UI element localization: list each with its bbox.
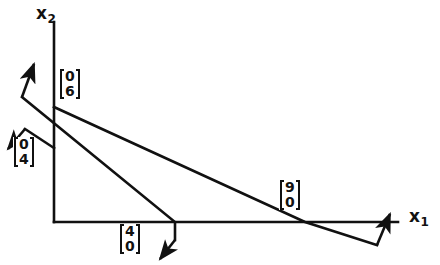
constraint-line-shallow [54,107,377,245]
vector-value-bottom: 4 [19,152,29,167]
x-axis-label-sub: 1 [420,215,428,229]
normal-vector-up-right [22,64,34,97]
y-axis-label-main: x [36,3,47,23]
vector-label-0-4: 0 4 [13,137,35,167]
y-axis-label: x2 [36,3,56,26]
bracket-right-icon [76,69,80,99]
x-axis-label: x1 [409,206,429,229]
vector-value-bottom: 0 [285,195,295,210]
vector-value-top: 4 [125,224,135,239]
vector-values: 0 4 [18,137,30,167]
diagram-canvas [0,0,440,265]
normal-vector-right-up [377,214,390,245]
vector-values: 9 0 [284,180,296,210]
vector-value-top: 0 [19,137,29,152]
vector-label-9-0: 9 0 [279,180,301,210]
bracket-right-icon [136,224,140,254]
y-axis-label-sub: 2 [47,12,55,26]
figure-root: x2 x1 0 6 0 4 4 0 9 0 [0,0,440,265]
bracket-right-icon [30,137,34,167]
vector-value-bottom: 0 [125,239,135,254]
normal-vector-down-left-lower [160,240,175,259]
vector-value-top: 0 [65,69,75,84]
bracket-right-icon [296,180,300,210]
vector-values: 4 0 [124,224,136,254]
vector-value-top: 9 [285,180,295,195]
vector-values: 0 6 [64,69,76,99]
vector-value-bottom: 6 [65,84,75,99]
vector-label-4-0: 4 0 [119,224,141,254]
vector-label-0-6: 0 6 [59,69,81,99]
x-axis-label-main: x [409,206,420,226]
constraint-line-steep [22,97,175,240]
